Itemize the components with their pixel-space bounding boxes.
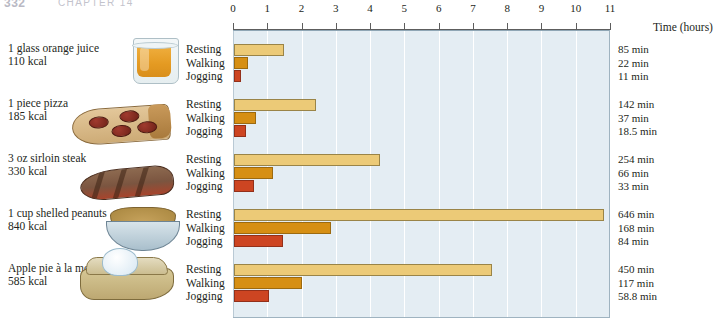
axis-tick <box>610 23 611 30</box>
food-label: 1 glass orange juice 110 kcal <box>8 42 99 68</box>
bar-jogging[interactable] <box>234 235 283 247</box>
axis-tick <box>267 23 268 30</box>
minutes-walking: 168 min <box>618 222 654 236</box>
activity-label-jogging: Jogging <box>186 290 225 304</box>
orange-juice-glass-icon <box>133 38 181 88</box>
axis-tick-label: 6 <box>436 2 442 14</box>
axis-tick <box>370 23 371 30</box>
minutes-resting: 254 min <box>618 153 654 167</box>
food-label: 1 cup shelled peanuts 840 kcal <box>8 207 107 233</box>
food-name: 1 piece pizza <box>8 97 68 109</box>
axis-tick <box>576 23 577 30</box>
minutes-jogging: 18.5 min <box>618 125 657 139</box>
food-label: 3 oz sirloin steak 330 kcal <box>8 152 86 178</box>
food-kcal: 110 kcal <box>8 55 99 68</box>
bar-walking[interactable] <box>234 167 273 179</box>
axis-tick <box>336 23 337 30</box>
minutes-walking: 117 min <box>618 277 657 291</box>
axis-tick <box>302 23 303 30</box>
food-label: Apple pie à la mode 585 kcal <box>8 262 101 288</box>
bar-resting[interactable] <box>234 264 492 276</box>
minutes-resting: 85 min <box>618 43 649 57</box>
activity-labels: Resting Walking Jogging <box>186 263 225 304</box>
activity-label-resting: Resting <box>186 208 225 222</box>
axis-tick <box>541 23 542 30</box>
axis-tick-label: 2 <box>299 2 305 14</box>
food-kcal: 185 kcal <box>8 110 68 123</box>
minute-labels: 646 min 168 min 84 min <box>618 208 654 249</box>
axis-tick-label: 0 <box>230 2 236 14</box>
chart-row: 1 piece pizza 185 kcal Resting Walking J… <box>0 93 674 149</box>
minutes-jogging: 58.8 min <box>618 290 657 304</box>
activity-label-walking: Walking <box>186 57 225 71</box>
food-kcal: 585 kcal <box>8 275 101 288</box>
chart-row: 1 cup shelled peanuts 840 kcal Resting W… <box>0 203 674 259</box>
activity-label-jogging: Jogging <box>186 180 225 194</box>
minutes-resting: 142 min <box>618 98 657 112</box>
bar-resting[interactable] <box>234 154 380 166</box>
activity-label-walking: Walking <box>186 277 225 291</box>
activity-labels: Resting Walking Jogging <box>186 43 225 84</box>
minute-labels: 450 min 117 min 58.8 min <box>618 263 657 304</box>
pizza-slice-icon <box>72 101 180 147</box>
axis-tick-label: 9 <box>539 2 545 14</box>
peanut-bowl-icon <box>106 207 182 255</box>
axis-tick <box>507 23 508 30</box>
axis-tick-label: 8 <box>504 2 510 14</box>
minutes-jogging: 33 min <box>618 180 654 194</box>
food-name: 1 glass orange juice <box>8 42 99 54</box>
bar-jogging[interactable] <box>234 290 269 302</box>
minutes-walking: 22 min <box>618 57 649 71</box>
axis-tick-label: 5 <box>402 2 408 14</box>
bar-walking[interactable] <box>234 222 331 234</box>
axis-tick-label: 10 <box>570 2 581 14</box>
chart-row: 1 glass orange juice 110 kcal Resting Wa… <box>0 38 674 94</box>
food-kcal: 840 kcal <box>8 220 107 233</box>
minute-labels: 85 min 22 min 11 min <box>618 43 649 84</box>
activity-label-jogging: Jogging <box>186 70 225 84</box>
minutes-jogging: 11 min <box>618 70 649 84</box>
minutes-jogging: 84 min <box>618 235 654 249</box>
axis-tick <box>404 23 405 30</box>
food-kcal: 330 kcal <box>8 165 86 178</box>
bar-jogging[interactable] <box>234 180 254 192</box>
axis-tick-label: 1 <box>265 2 271 14</box>
bar-resting[interactable] <box>234 44 284 56</box>
axis-tick-label: 3 <box>333 2 339 14</box>
axis-tick-label: 7 <box>470 2 476 14</box>
minute-labels: 142 min 37 min 18.5 min <box>618 98 657 139</box>
activity-label-walking: Walking <box>186 112 225 126</box>
activity-label-jogging: Jogging <box>186 235 225 249</box>
minutes-walking: 66 min <box>618 167 654 181</box>
chart-row: 3 oz sirloin steak 330 kcal Resting Walk… <box>0 148 674 204</box>
steak-icon <box>80 164 180 204</box>
chart-row: Apple pie à la mode 585 kcal Resting Wal… <box>0 258 674 316</box>
activity-labels: Resting Walking Jogging <box>186 208 225 249</box>
food-name: Apple pie à la mode <box>8 262 101 274</box>
activity-label-resting: Resting <box>186 153 225 167</box>
bar-walking[interactable] <box>234 277 302 289</box>
bar-walking[interactable] <box>234 57 248 69</box>
food-name: 3 oz sirloin steak <box>8 152 86 164</box>
bar-jogging[interactable] <box>234 125 246 137</box>
activity-labels: Resting Walking Jogging <box>186 153 225 194</box>
bar-walking[interactable] <box>234 112 256 124</box>
bar-resting[interactable] <box>234 99 316 111</box>
activity-labels: Resting Walking Jogging <box>186 98 225 139</box>
activity-label-resting: Resting <box>186 263 225 277</box>
axis-tick <box>439 23 440 30</box>
axis-tick <box>233 23 234 30</box>
activity-label-walking: Walking <box>186 167 225 181</box>
x-axis-title: Time (hours) <box>653 21 713 33</box>
minute-labels: 254 min 66 min 33 min <box>618 153 654 194</box>
activity-label-resting: Resting <box>186 98 225 112</box>
activity-label-resting: Resting <box>186 43 225 57</box>
axis-tick <box>473 23 474 30</box>
bar-resting[interactable] <box>234 209 604 221</box>
minutes-resting: 646 min <box>618 208 654 222</box>
axis-tick-label: 4 <box>367 2 373 14</box>
food-label: 1 piece pizza 185 kcal <box>8 97 68 123</box>
minutes-walking: 37 min <box>618 112 657 126</box>
bar-jogging[interactable] <box>234 70 241 82</box>
